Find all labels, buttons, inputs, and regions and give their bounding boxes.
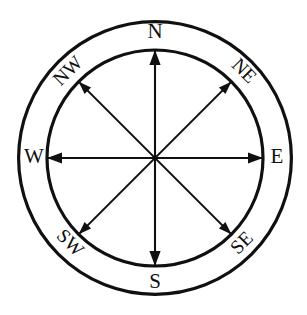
label-north: N (147, 19, 162, 43)
arrowhead-north (149, 50, 160, 65)
arrowhead-east (248, 152, 263, 163)
label-east: E (271, 144, 284, 168)
label-west: W (24, 144, 44, 168)
compass-rose-figure: NNEESESSWWNW (0, 0, 307, 315)
label-south: S (149, 269, 161, 293)
arrowhead-west (47, 152, 62, 163)
compass-rose-diagram: NNEESESSWWNW (0, 0, 307, 315)
arrowhead-south (149, 251, 160, 266)
